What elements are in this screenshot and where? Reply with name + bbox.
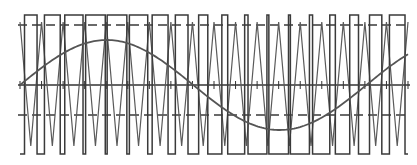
pwm-diagram-canvas [0,0,417,165]
pwm-diagram [0,0,417,165]
